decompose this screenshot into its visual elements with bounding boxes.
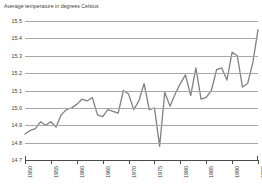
x-axis-tick-label: 1985	[208, 166, 214, 178]
x-axis-tick-label: 1995	[260, 166, 262, 178]
y-axis-tick-label: 15.3	[12, 53, 23, 59]
x-axis-tick-label: 1970	[131, 166, 137, 178]
gridline	[25, 125, 258, 126]
y-axis-tick-label: 15.0	[12, 105, 23, 111]
x-axis-tick-label: 1955	[53, 166, 59, 178]
gridline	[25, 21, 258, 22]
x-axis-tick-label: 1990	[234, 166, 240, 178]
y-axis-tick-label: 14.9	[12, 122, 23, 128]
x-axis-tick-label: 1965	[105, 166, 111, 178]
y-axis-tick-label: 14.7	[12, 157, 23, 163]
y-axis-labels: 15.515.415.315.215.115.014.914.814.7	[0, 21, 22, 160]
plot-area	[25, 21, 258, 160]
chart-title: Average temperature in degrees Celsius	[4, 3, 99, 9]
x-axis-tick-label: 1980	[183, 166, 189, 178]
x-axis-left-cap	[25, 156, 26, 161]
x-axis-tick-label: 1975	[157, 166, 163, 178]
y-axis-tick-label: 15.1	[12, 88, 23, 94]
gridline	[25, 56, 258, 57]
y-axis-tick-label: 15.5	[12, 18, 23, 24]
x-axis-tick	[258, 160, 259, 164]
gridline	[25, 143, 258, 144]
y-axis-tick-label: 15.4	[12, 35, 23, 41]
gridline	[25, 108, 258, 109]
gridline	[25, 91, 258, 92]
gridline	[25, 38, 258, 39]
x-axis-line	[25, 160, 258, 161]
gridline	[25, 73, 258, 74]
x-axis-tick-label: 1960	[79, 166, 85, 178]
x-axis-right-cap	[257, 156, 258, 161]
x-axis-tick-label: 1950	[27, 166, 33, 178]
y-axis-tick-label: 15.2	[12, 70, 23, 76]
y-axis-tick-label: 14.8	[12, 140, 23, 146]
temperature-line-chart: Average temperature in degrees Celsius 1…	[0, 0, 262, 188]
